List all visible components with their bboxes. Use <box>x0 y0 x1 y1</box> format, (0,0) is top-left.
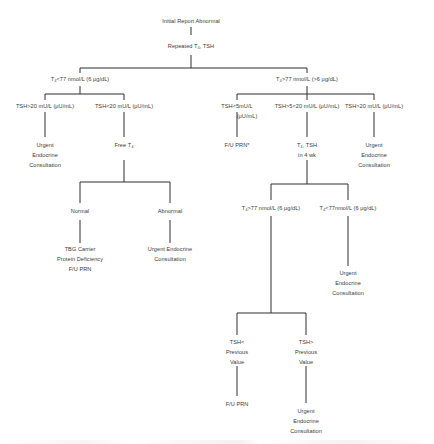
node-repeated-t4-tsh: Repeated T₄, TSH <box>168 41 214 51</box>
node-text: Consultation <box>148 254 192 264</box>
node-text: Endocrine <box>29 150 61 160</box>
node-text: Free T₄ <box>114 140 133 150</box>
node-text: TSH>20 mU/L (μU/mL) <box>345 101 403 111</box>
node-text: TSH>5<20 mU/L (μU/mL) <box>275 101 340 111</box>
node-fu-prn: F/U PRN <box>226 399 249 409</box>
node-right-tsh-5-20: TSH>5<20 mU/L (μU/mL) <box>275 101 340 111</box>
node-t4-lt77: T₄<77nmol/L (6 μg/dL) <box>320 203 377 213</box>
node-t4lt-urgent-consult: Urgent Endocrine Consultation <box>332 268 364 298</box>
node-text: Consultation <box>29 160 61 170</box>
node-left-urgent-consult: Urgent Endocrine Consultation <box>29 140 61 170</box>
node-left-tsh-low: TSH<20 mU/L (μU/mL) <box>95 101 153 111</box>
node-tsh-lt-previous: TSH< Previous Value <box>226 337 248 367</box>
node-text: T₄<77nmol/L (6 μg/dL) <box>320 203 377 213</box>
node-text: Urgent <box>290 406 322 416</box>
connector-lines <box>0 0 434 444</box>
node-fu-prn-star: F/U PRN* <box>225 140 250 150</box>
node-text: TSH< <box>226 337 248 347</box>
node-t4-gt77: T₄>77 nmol/L (6 μg/dL) <box>242 203 300 213</box>
node-text: Consultation <box>332 288 364 298</box>
flowchart: Initial Report Abnormal Repeated T₄, TSH… <box>0 0 434 444</box>
node-text: Repeated T₄, TSH <box>168 41 214 51</box>
node-text: Previous <box>226 347 248 357</box>
node-free-t4: Free T₄ <box>114 140 133 150</box>
node-text: Consultation <box>290 426 322 436</box>
node-text: Normal <box>71 206 89 216</box>
node-left-tsh-high: TSH>20 mU/L (μU/mL) <box>16 101 74 111</box>
node-tsh-gt-previous: TSH> Previous Value <box>295 337 317 367</box>
node-text: Value <box>295 357 317 367</box>
node-text: Urgent <box>358 140 390 150</box>
node-initial-report-abnormal: Initial Report Abnormal <box>162 16 220 26</box>
node-text: Value <box>226 357 248 367</box>
node-text: T₄>77 nmol/L (>6 μg/dL) <box>276 74 338 84</box>
node-text: TSH>20 mU/L (μU/mL) <box>16 101 74 111</box>
node-prev-urgent-consult: Urgent Endocrine Consultation <box>290 406 322 436</box>
node-text: Endocrine <box>358 150 390 160</box>
node-tbg-deficiency: TBG Carrier Protein Deficiency F/U PRN <box>57 244 103 274</box>
node-text: Consultation <box>358 160 390 170</box>
node-text: (μU/mL) <box>237 111 258 121</box>
node-text: TSH> <box>295 337 317 347</box>
node-text: F/U PRN <box>57 264 103 274</box>
node-text: Urgent <box>29 140 61 150</box>
node-text: Urgent Endocrine <box>148 244 192 254</box>
node-text: Endocrine <box>290 416 322 426</box>
node-text: Abnormal <box>158 206 182 216</box>
node-text: TBG Carrier <box>57 244 103 254</box>
node-text: F/U PRN <box>226 399 249 409</box>
node-right-tsh-lt5: TSH<5mU/L (μU/mL) <box>217 101 258 121</box>
node-abnormal-urgent-consult: Urgent Endocrine Consultation <box>148 244 192 264</box>
node-text: T₄<77 nmol/L (6 μg/dL) <box>51 74 109 84</box>
node-text: TSH<20 mU/L (μU/mL) <box>95 101 153 111</box>
scan-artifact-strip <box>0 440 434 444</box>
node-right-tsh-gt20: TSH>20 mU/L (μU/mL) <box>345 101 403 111</box>
node-text: T₄>77 nmol/L (6 μg/dL) <box>242 203 300 213</box>
node-text: T₄, TSH <box>297 140 317 150</box>
node-left-t4-low: T₄<77 nmol/L (6 μg/dL) <box>51 74 109 84</box>
node-text: in 4 wk <box>297 150 317 160</box>
node-text: Protein Deficiency <box>57 254 103 264</box>
node-text: Urgent <box>332 268 364 278</box>
node-text: TSH<5mU/L <box>217 101 258 111</box>
node-abnormal: Abnormal <box>158 206 182 216</box>
node-t4-tsh-4wk: T₄, TSH in 4 wk <box>297 140 317 160</box>
node-normal: Normal <box>71 206 89 216</box>
node-right-urgent-consult: Urgent Endocrine Consultation <box>358 140 390 170</box>
node-text: Initial Report Abnormal <box>162 16 220 26</box>
node-text: F/U PRN* <box>225 140 250 150</box>
node-text: Endocrine <box>332 278 364 288</box>
node-right-t4-high: T₄>77 nmol/L (>6 μg/dL) <box>276 74 338 84</box>
node-text: Previous <box>295 347 317 357</box>
